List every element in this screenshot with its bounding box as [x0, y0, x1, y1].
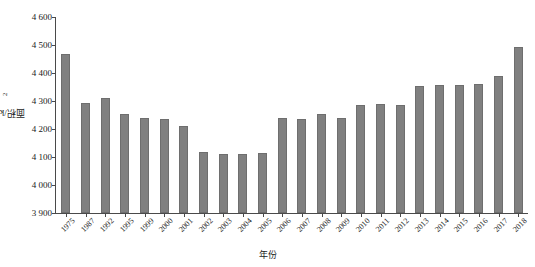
x-axis-tick-label-text: 2012	[394, 217, 411, 234]
x-axis-tick-label-text: 2015	[453, 217, 470, 234]
bar[interactable]	[415, 86, 424, 213]
bar[interactable]	[317, 114, 326, 213]
bar-slot	[272, 17, 292, 213]
bar[interactable]	[258, 153, 267, 213]
bar[interactable]	[396, 105, 405, 213]
x-axis-tick-label-text: 2014	[433, 217, 450, 234]
x-axis-title: 年份	[0, 248, 535, 261]
bar-slot	[56, 17, 76, 213]
y-axis-tick-label: 4 200	[32, 125, 52, 134]
x-axis-tick-label-text: 2007	[296, 217, 313, 234]
x-axis-tick-label-text: 2004	[237, 217, 254, 234]
bar-slot	[233, 17, 253, 213]
bar-slot	[390, 17, 410, 213]
y-axis-tick-mark	[52, 157, 56, 158]
x-axis-tick-label-text: 2000	[158, 217, 175, 234]
bar-chart-figure: 面积/km2 3 9004 0004 1004 2004 3004 4004 5…	[0, 0, 535, 267]
y-axis-tick-label: 4 100	[32, 153, 52, 162]
bar-slot	[331, 17, 351, 213]
x-axis-tick-label-text: 2009	[335, 217, 352, 234]
bar[interactable]	[199, 152, 208, 213]
bar[interactable]	[376, 104, 385, 213]
bar[interactable]	[120, 114, 129, 213]
bar-slot	[154, 17, 174, 213]
x-axis-tick-label-text: 2017	[492, 217, 509, 234]
bar-slot	[371, 17, 391, 213]
y-axis-tick-mark	[52, 129, 56, 130]
bar[interactable]	[337, 118, 346, 213]
y-axis-tick-label: 4 400	[32, 69, 52, 78]
x-axis-tick-label-text: 2011	[374, 217, 391, 234]
bar[interactable]	[474, 84, 483, 213]
bar-series	[56, 17, 528, 213]
x-axis-tick-label-text: 2005	[256, 217, 273, 234]
x-axis-tick-labels: 1975198719921995199920002001200220032004…	[55, 215, 527, 249]
bar[interactable]	[179, 126, 188, 213]
y-axis-tick-label: 4 600	[32, 13, 52, 22]
y-axis-tick-mark	[52, 185, 56, 186]
y-axis-tick-mark	[52, 101, 56, 102]
bar[interactable]	[455, 85, 464, 213]
plot-area	[55, 17, 528, 214]
bar-slot	[213, 17, 233, 213]
bar-slot	[253, 17, 273, 213]
bar[interactable]	[514, 47, 523, 213]
x-axis-tick-label-text: 2016	[473, 217, 490, 234]
y-axis-tick-label: 4 000	[32, 181, 52, 190]
x-axis-tick-label-text: 2008	[315, 217, 332, 234]
bar[interactable]	[297, 119, 306, 213]
bar[interactable]	[160, 119, 169, 213]
x-axis-tick-label-text: 2001	[178, 217, 195, 234]
bar-slot	[76, 17, 96, 213]
x-axis-tick-label-text: 1975	[60, 217, 77, 234]
x-axis-tick-label-text: 2010	[355, 217, 372, 234]
y-axis-tick-mark	[52, 45, 56, 46]
bar-slot	[469, 17, 489, 213]
bar-slot	[135, 17, 155, 213]
bar-slot	[489, 17, 509, 213]
y-axis-tick-label: 4 500	[32, 41, 52, 50]
x-axis-tick-label-text: 2003	[217, 217, 234, 234]
bar[interactable]	[219, 154, 228, 213]
bar-slot	[410, 17, 430, 213]
bar[interactable]	[101, 98, 110, 213]
x-axis-tick-label-text: 1995	[119, 217, 136, 234]
y-axis-tick-label: 3 900	[32, 209, 52, 218]
bar[interactable]	[140, 118, 149, 213]
y-axis-tick-labels: 3 9004 0004 1004 2004 3004 4004 5004 600	[14, 0, 54, 267]
x-axis-tick-label-text: 2013	[414, 217, 431, 234]
bar[interactable]	[494, 76, 503, 213]
x-axis-tick-label-text: 1999	[138, 217, 155, 234]
y-axis-tick-mark	[52, 17, 56, 18]
bar[interactable]	[278, 118, 287, 213]
bar[interactable]	[435, 85, 444, 213]
x-axis-tick-label-text: 1987	[79, 217, 96, 234]
bar-slot	[194, 17, 214, 213]
y-axis-tick-mark	[52, 213, 56, 214]
bar-slot	[508, 17, 528, 213]
x-axis-tick-label-text: 2018	[512, 217, 529, 234]
bar-slot	[312, 17, 332, 213]
bar-slot	[351, 17, 371, 213]
bar[interactable]	[61, 54, 70, 213]
bar-slot	[430, 17, 450, 213]
y-axis-title-superscript: 2	[2, 92, 9, 95]
bar[interactable]	[356, 105, 365, 213]
bar-slot	[174, 17, 194, 213]
bar[interactable]	[81, 103, 90, 213]
bar-slot	[115, 17, 135, 213]
x-axis-tick-label-text: 1992	[99, 217, 116, 234]
x-axis-tick-label-text: 2002	[197, 217, 214, 234]
y-axis-tick-mark	[52, 73, 56, 74]
bar[interactable]	[238, 154, 247, 213]
bar-slot	[95, 17, 115, 213]
y-axis-tick-label: 4 300	[32, 97, 52, 106]
bar-slot	[292, 17, 312, 213]
bar-slot	[449, 17, 469, 213]
x-axis-tick-label-text: 2006	[276, 217, 293, 234]
